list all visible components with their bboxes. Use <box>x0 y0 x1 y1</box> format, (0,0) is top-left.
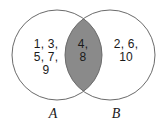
set-b-elements-text: 2, 6, 10 <box>98 38 154 64</box>
set-b-label: B <box>106 107 126 121</box>
intersection-elements-text: 4, 8 <box>70 38 96 64</box>
venn-diagram: 1, 3, 5, 7, 9 4, 8 2, 6, 10 A B <box>0 0 166 133</box>
set-a-elements-text: 1, 3, 5, 7, 9 <box>17 38 75 77</box>
set-a-label: A <box>43 107 63 121</box>
